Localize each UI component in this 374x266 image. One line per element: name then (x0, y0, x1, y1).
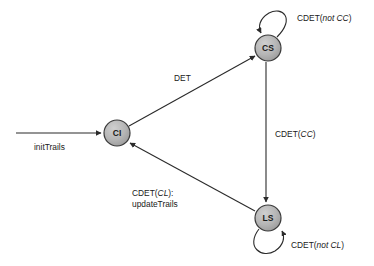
edge-label-cdet-cl-prefix: CDET( (132, 188, 158, 198)
self-loop-label-ls-suffix: ) (341, 240, 344, 250)
edge-ci-cs (129, 56, 255, 126)
self-loop-label-cs-italic: not CC (323, 13, 350, 23)
entry-arrow-group: initTrails (16, 133, 101, 152)
state-node-ci[interactable]: CI (104, 120, 130, 146)
state-node-ls[interactable]: LS (255, 205, 281, 231)
self-loop-path-ls (254, 229, 284, 254)
self-loop-label-ls-italic: not CL (317, 240, 342, 250)
transition-cs-to-ls: CDET(CC) (266, 62, 316, 202)
self-loop-label-ls: CDET(not CL) (291, 240, 344, 250)
transition-ci-to-cs: DET (129, 56, 255, 126)
self-loop-cs: CDET(not CC) (260, 11, 352, 37)
edge-label-cdet-cc-prefix: CDET( (275, 129, 301, 139)
self-loop-label-cs-prefix: CDET( (297, 13, 323, 23)
state-label-ls: LS (263, 213, 274, 223)
self-loop-label-cs-suffix: ) (349, 13, 352, 23)
self-loop-label-ls-prefix: CDET( (291, 240, 317, 250)
state-diagram-canvas: initTrails DET CDET(CC) CDET(CL): update… (0, 0, 374, 266)
state-label-cs: CS (262, 43, 274, 53)
state-label-ci: CI (113, 128, 122, 138)
edge-label-update-trails: updateTrails (132, 199, 178, 209)
edge-label-cdet-cc-suffix: ) (313, 129, 316, 139)
edge-label-det: DET (174, 73, 191, 83)
edge-label-cdet-cl: CDET(CL): (132, 188, 173, 198)
self-loop-label-cs: CDET(not CC) (297, 13, 352, 23)
edge-label-cdet-cl-italic: CL (158, 188, 169, 198)
diagram-svg: initTrails DET CDET(CC) CDET(CL): update… (0, 0, 374, 266)
self-loop-path-cs (260, 11, 287, 37)
state-node-cs[interactable]: CS (255, 35, 281, 61)
edge-label-cdet-cc: CDET(CC) (275, 129, 316, 139)
edge-label-cdet-cl-suffix: ): (168, 188, 173, 198)
transition-ls-to-ci: CDET(CL): updateTrails (130, 143, 255, 211)
edge-label-cdet-cc-italic: CC (301, 129, 314, 139)
entry-label-initTrails: initTrails (34, 142, 65, 152)
self-loop-ls: CDET(not CL) (254, 229, 345, 254)
